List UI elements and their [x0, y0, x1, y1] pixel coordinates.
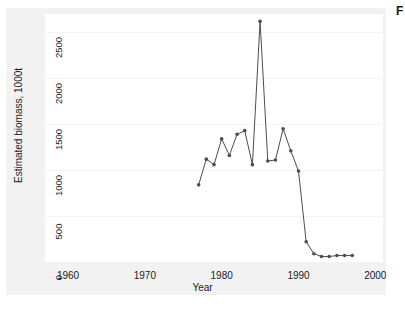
data-point — [335, 254, 339, 258]
data-point — [297, 169, 301, 173]
data-point — [205, 157, 209, 161]
data-point — [350, 254, 354, 258]
figure-corner-label: F — [396, 4, 404, 18]
data-point — [228, 154, 232, 158]
data-point — [320, 255, 324, 259]
y-tick-label-2000: 2000 — [53, 77, 64, 111]
x-tick-label-2000: 2000 — [355, 270, 395, 281]
data-point — [304, 240, 308, 244]
x-tick-label-1990: 1990 — [279, 270, 319, 281]
y-tick-label-500: 500 — [53, 215, 64, 249]
y-tick-label-2500: 2500 — [53, 31, 64, 65]
y-tick-label-1500: 1500 — [53, 123, 64, 157]
x-tick-label-1970: 1970 — [125, 270, 165, 281]
data-point — [197, 183, 201, 187]
data-point — [274, 158, 278, 162]
x-tick-label-1980: 1980 — [202, 270, 242, 281]
data-point — [212, 163, 216, 167]
data-point — [251, 163, 255, 167]
data-point — [235, 133, 239, 137]
data-point — [327, 255, 331, 259]
x-axis-label: Year — [0, 282, 405, 293]
data-point — [289, 149, 293, 153]
data-point — [258, 20, 262, 24]
series-markers — [197, 20, 354, 259]
data-point — [266, 159, 270, 163]
data-point — [220, 137, 224, 141]
data-point — [312, 252, 316, 256]
y-axis-label: Estimated biomass, 1000t — [13, 46, 24, 206]
data-point — [343, 254, 347, 258]
data-point — [281, 127, 285, 131]
plot-panel — [45, 14, 383, 262]
data-point — [243, 129, 247, 133]
figure-container: F 05001000150020002500 Estimated biomass… — [0, 0, 405, 310]
biomass-line-series — [45, 14, 383, 262]
x-tick-label-1960: 1960 — [48, 270, 88, 281]
y-tick-label-1000: 1000 — [53, 169, 64, 203]
